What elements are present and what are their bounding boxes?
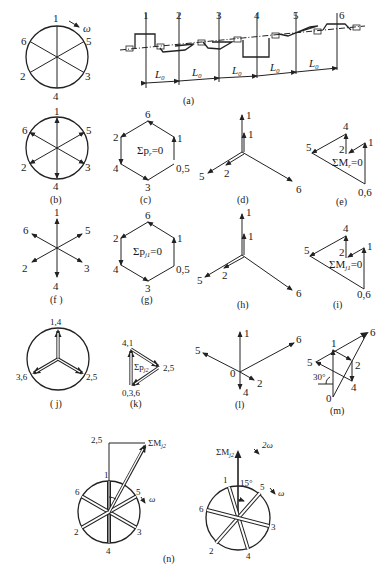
svg-text:2: 2: [21, 161, 27, 173]
svg-text:ΣMj1=0: ΣMj1=0: [329, 258, 363, 272]
panel-e: 4 1 5 2 0,6 ΣMr=0 (e): [306, 120, 374, 208]
svg-text:4: 4: [243, 386, 249, 398]
svg-text:5: 5: [304, 244, 310, 256]
svg-text:2: 2: [339, 246, 345, 258]
caption: (h): [237, 299, 249, 311]
svg-text:3: 3: [84, 262, 90, 274]
svg-text:4: 4: [343, 120, 349, 132]
svg-text:5: 5: [197, 274, 203, 286]
svg-text:4: 4: [246, 551, 251, 561]
svg-text:6: 6: [199, 504, 204, 514]
svg-text:5: 5: [195, 344, 201, 356]
svg-text:1,4: 1,4: [50, 317, 62, 327]
crank-label: 6: [21, 35, 27, 47]
svg-text:6: 6: [145, 209, 151, 221]
svg-text:2: 2: [176, 9, 182, 21]
svg-text:2: 2: [224, 167, 230, 179]
svg-text:5: 5: [306, 141, 312, 153]
crank-label: 1: [53, 12, 59, 24]
svg-text:L₀: L₀: [308, 57, 319, 69]
crank-label: 2: [20, 70, 26, 82]
svg-text:5: 5: [199, 170, 205, 182]
caption: (i): [333, 299, 342, 311]
svg-text:5: 5: [293, 9, 299, 21]
svg-text:6: 6: [296, 183, 302, 195]
svg-text:2: 2: [74, 527, 79, 537]
svg-text:2,5: 2,5: [91, 435, 103, 445]
svg-text:1: 1: [143, 9, 149, 21]
caption: ( j): [50, 398, 62, 410]
svg-text:3: 3: [137, 527, 142, 537]
panel-h: 1 1 5 2 6 (h): [197, 206, 302, 311]
svg-text:ΣMj2: ΣMj2: [148, 438, 166, 449]
panel-m: 6 1 5 2 4 0 30° (m): [307, 326, 376, 417]
svg-text:3: 3: [216, 9, 222, 21]
svg-text:2: 2: [339, 143, 345, 155]
svg-text:6: 6: [75, 487, 80, 497]
panel-b: 1 5 3 4 2 6 (b): [21, 105, 92, 206]
svg-text:4: 4: [351, 381, 357, 393]
rotation-arrow-icon: [270, 488, 275, 494]
svg-text:4: 4: [106, 546, 111, 556]
svg-text:0,5: 0,5: [176, 162, 190, 174]
svg-text:6: 6: [22, 124, 28, 136]
rotation-arrow-icon: [69, 21, 79, 27]
panel-k: 4,1 2,5 0,3,6 Σpj2 (k): [122, 338, 175, 410]
panel-a-crankshaft: 1 2 3 4 5 6 L₀ L₀ L₀ L₀ L₀ (a): [120, 9, 365, 107]
svg-text:4: 4: [53, 280, 59, 292]
svg-text:2: 2: [222, 269, 228, 281]
svg-text:6: 6: [339, 9, 345, 21]
panel-g: 6 1 0,5 3 4 2 Σpj1=0 (g): [113, 209, 190, 306]
caption: (l): [235, 399, 244, 411]
svg-text:1: 1: [246, 109, 252, 121]
svg-text:0: 0: [230, 367, 236, 379]
panel-l: 1 6 5 0 2 4 (l): [195, 327, 302, 411]
rotation-arrow-icon: [254, 449, 259, 454]
svg-text:2: 2: [209, 546, 214, 556]
crankshaft-balance-figure: 1 5 3 4 2 6 ω: [0, 0, 384, 580]
svg-text:ΣMr=0: ΣMr=0: [332, 156, 363, 170]
svg-text:1: 1: [177, 132, 183, 144]
svg-text:3: 3: [85, 161, 91, 173]
svg-text:6: 6: [23, 224, 29, 236]
caption: (c): [140, 194, 151, 206]
caption: (m): [330, 405, 344, 417]
svg-text:2: 2: [22, 262, 28, 274]
caption: (b): [50, 194, 62, 206]
svg-text:0,6: 0,6: [358, 186, 372, 198]
rotation-arrow-icon: [141, 497, 145, 503]
svg-text:1: 1: [368, 136, 374, 148]
crank-label: 3: [85, 70, 91, 82]
svg-text:2: 2: [113, 131, 119, 143]
svg-text:2ω: 2ω: [262, 440, 273, 450]
panel-d: 1 1 5 2 6 (d): [199, 109, 302, 206]
svg-text:2: 2: [257, 377, 263, 389]
crank-label: 5: [86, 35, 92, 47]
caption: (e): [336, 196, 347, 208]
svg-text:L₀: L₀: [269, 61, 280, 73]
svg-text:L₀: L₀: [191, 66, 202, 78]
svg-text:5: 5: [260, 482, 265, 492]
svg-text:1: 1: [248, 230, 254, 242]
caption: (d): [237, 194, 249, 206]
svg-text:4: 4: [53, 180, 59, 192]
svg-text:Σpj2: Σpj2: [134, 362, 148, 373]
panel-n-right: ΣMj2 2ω 15° 1 5 6 3 2 4 ω: [199, 440, 284, 561]
svg-text:1: 1: [104, 470, 109, 480]
svg-text:5: 5: [307, 356, 313, 368]
svg-text:1: 1: [331, 337, 337, 349]
panel-c: 6 1 0,5 3 4 2 Σpr=0 (c): [113, 108, 190, 206]
svg-text:6: 6: [296, 287, 302, 299]
svg-text:1: 1: [248, 128, 254, 140]
panel-i: 4 1 5 2 0,6 ΣMj1=0 (i): [304, 222, 373, 311]
caption: (n): [163, 553, 175, 565]
svg-text:1: 1: [367, 240, 373, 252]
svg-text:4: 4: [254, 9, 260, 21]
svg-text:0: 0: [326, 392, 332, 404]
svg-text:2: 2: [355, 359, 361, 371]
svg-text:5: 5: [85, 224, 91, 236]
svg-text:ω: ω: [149, 494, 155, 504]
svg-text:6: 6: [296, 333, 302, 345]
svg-text:Σpr=0: Σpr=0: [137, 144, 164, 158]
svg-text:4: 4: [113, 162, 119, 174]
